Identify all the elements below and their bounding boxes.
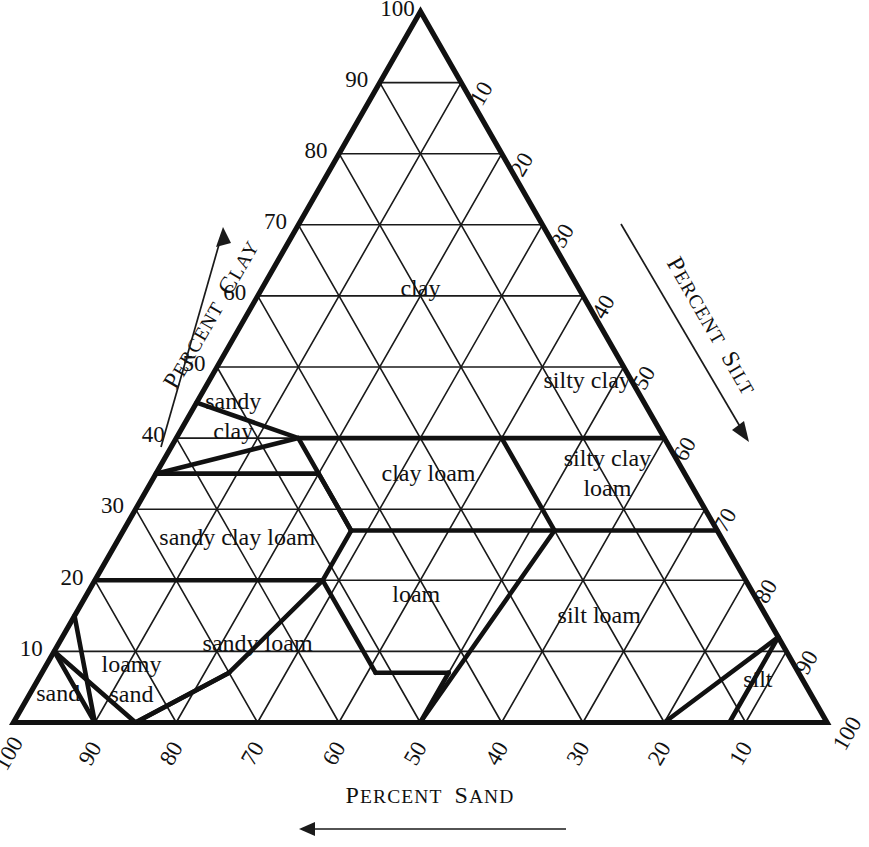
tick-sand-50: 50 xyxy=(399,737,432,769)
sand-axis-arrow-head xyxy=(299,822,315,836)
sandy-clay-loam-right xyxy=(323,531,351,581)
tick-clay-80: 80 xyxy=(305,138,328,163)
tick-sand-10: 10 xyxy=(724,737,757,769)
class-label-clay-loam: clay loam xyxy=(381,460,475,486)
axis-title-sand-group: PERCENT SAND xyxy=(299,782,566,836)
axis-title-clay-group: PERCENT CLAY xyxy=(158,227,264,447)
tick-clay-70: 70 xyxy=(264,209,287,234)
tick-sand-30: 30 xyxy=(561,737,594,769)
tick-clay-30: 30 xyxy=(101,493,124,518)
grid-line-silt-50 xyxy=(420,367,624,723)
tick-sand-20: 20 xyxy=(643,737,676,769)
tick-sand-80: 80 xyxy=(155,737,188,769)
class-label-sandy-clay-loam: sandy clay loam xyxy=(159,524,315,550)
tick-sand-100: 100 xyxy=(0,732,28,774)
class-label-loamy-sand: loamysand xyxy=(101,651,161,707)
soil-texture-triangle-figure: 1020304050607080901001020304050607080901… xyxy=(0,0,869,847)
tick-sand-40: 40 xyxy=(480,737,513,769)
silt-axis-arrow-head xyxy=(732,421,749,442)
axis-title-sand: PERCENT SAND xyxy=(346,782,515,808)
class-label-clay: clay xyxy=(400,275,440,301)
clay-axis-arrow-head xyxy=(216,227,231,247)
class-label-sand: sand xyxy=(36,680,80,706)
sandy-loam-upper xyxy=(229,580,323,672)
tick-clay-90: 90 xyxy=(345,67,368,92)
sandy-clay-loam-step xyxy=(319,474,352,531)
tick-silt-40: 40 xyxy=(587,291,620,323)
silt-loam-boundary xyxy=(420,531,554,723)
tick-silt-80: 80 xyxy=(749,575,782,607)
tick-sand-60: 60 xyxy=(317,737,350,769)
class-label-silty-clay: silty clay xyxy=(543,367,630,393)
tick-clay-20: 20 xyxy=(60,565,83,590)
tick-clay-100: 100 xyxy=(380,0,415,21)
tick-silt-20: 20 xyxy=(505,148,538,180)
tick-sand-70: 70 xyxy=(236,737,269,769)
tick-silt-100: 100 xyxy=(828,712,867,754)
tick-silt-10: 10 xyxy=(465,77,498,109)
class-label-silty-clay-loam: silty clayloam xyxy=(564,445,651,501)
tick-silt-30: 30 xyxy=(546,219,579,251)
clay-loam-right-boundary xyxy=(502,438,555,530)
tick-sand-90: 90 xyxy=(73,737,106,769)
class-label-sandy-loam: sandy loam xyxy=(203,630,313,656)
tick-silt-90: 90 xyxy=(790,646,823,678)
tick-silt-60: 60 xyxy=(668,433,701,465)
tick-clay-10: 10 xyxy=(20,636,43,661)
class-label-loam: loam xyxy=(392,581,440,607)
grid-lines-group xyxy=(54,83,786,723)
tick-silt-50: 50 xyxy=(627,362,660,394)
axis-title-silt-group: PERCENT SILT xyxy=(621,224,762,442)
ternary-diagram-svg: 1020304050607080901001020304050607080901… xyxy=(0,0,869,847)
class-label-silt: silt xyxy=(743,666,773,692)
class-label-silt-loam: silt loam xyxy=(558,602,642,628)
loam-lower-left xyxy=(323,580,376,672)
